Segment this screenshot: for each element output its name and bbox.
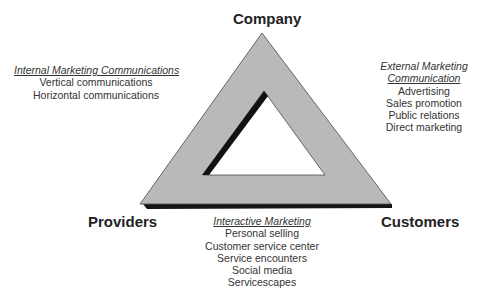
- external-marketing-title-line1: External Marketing: [376, 60, 472, 72]
- triangle-frame: [140, 33, 391, 204]
- vertex-customers: Customers: [381, 213, 459, 230]
- vertex-company: Company: [233, 10, 301, 27]
- external-item: Public relations: [376, 109, 472, 121]
- external-item: Advertising: [376, 85, 472, 97]
- vertex-providers: Providers: [88, 213, 157, 230]
- external-item: Sales promotion: [376, 97, 472, 109]
- interactive-item: Service encounters: [196, 252, 328, 264]
- interactive-item: Social media: [196, 264, 328, 276]
- interactive-marketing-title: Interactive Marketing: [196, 215, 328, 227]
- interactive-marketing-block: Interactive Marketing Personal selling C…: [196, 215, 328, 289]
- internal-marketing-title: Internal Marketing Communications: [14, 64, 178, 76]
- interactive-item: Servicescapes: [196, 276, 328, 288]
- external-marketing-title-line2: Communication: [376, 72, 472, 84]
- internal-item: Vertical communications: [14, 76, 178, 88]
- internal-marketing-block: Internal Marketing Communications Vertic…: [14, 64, 178, 101]
- internal-item: Horizontal communications: [14, 89, 178, 101]
- interactive-item: Personal selling: [196, 227, 328, 239]
- interactive-item: Customer service center: [196, 240, 328, 252]
- external-marketing-block: External Marketing Communication Adverti…: [376, 60, 472, 134]
- external-item: Direct marketing: [376, 121, 472, 133]
- triangle-bottom-shadow: [143, 204, 392, 209]
